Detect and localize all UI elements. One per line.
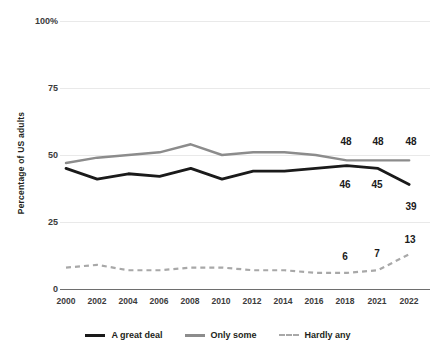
data-label-only-some-2018: 48 (340, 136, 351, 147)
series-line-hardly-any (66, 254, 409, 273)
legend-swatch-solid-dark-icon (85, 334, 105, 337)
data-label-a-great-deal-2021: 45 (371, 179, 382, 190)
series-line-a-great-deal (66, 166, 409, 185)
line-chart: Percentage of US adults 100% 75 50 25 0 … (0, 0, 436, 357)
data-label-hardly-any-2022: 13 (404, 234, 415, 245)
x-tick-2014: 2014 (274, 296, 293, 306)
data-label-only-some-2021: 48 (372, 136, 383, 147)
x-tick-2000: 2000 (57, 296, 76, 306)
data-label-hardly-any-2018: 6 (342, 251, 348, 262)
data-label-a-great-deal-2018: 46 (339, 179, 350, 190)
x-tick-2006: 2006 (150, 296, 169, 306)
x-tick-2002: 2002 (88, 296, 107, 306)
legend-item-hardly-any[interactable]: Hardly any (279, 330, 351, 340)
legend-label-hardly-any: Hardly any (305, 330, 351, 340)
x-tick-2010: 2010 (212, 296, 231, 306)
legend-swatch-dashed-gray-icon (279, 334, 299, 336)
legend-label-a-great-deal: A great deal (111, 330, 162, 340)
data-label-a-great-deal-2022: 39 (405, 201, 416, 212)
x-tick-2016: 2016 (305, 296, 324, 306)
x-tick-2012: 2012 (243, 296, 262, 306)
legend-swatch-solid-gray-icon (185, 334, 205, 337)
x-tick-2022: 2022 (400, 296, 419, 306)
legend-item-a-great-deal[interactable]: A great deal (85, 330, 162, 340)
series-line-only-some (66, 144, 409, 163)
chart-legend: A great deal Only some Hardly any (0, 330, 436, 340)
data-label-hardly-any-2021: 7 (374, 248, 380, 259)
x-tick-2021: 2021 (368, 296, 387, 306)
x-tick-2018: 2018 (336, 296, 355, 306)
x-tick-2004: 2004 (119, 296, 138, 306)
data-label-only-some-2022: 48 (405, 136, 416, 147)
x-tick-2008: 2008 (181, 296, 200, 306)
legend-item-only-some[interactable]: Only some (185, 330, 257, 340)
legend-label-only-some: Only some (211, 330, 257, 340)
